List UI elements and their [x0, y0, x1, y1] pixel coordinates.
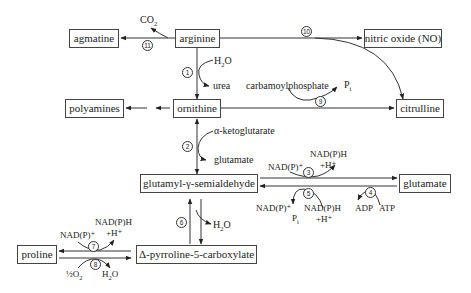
label-alpha-ketoglutarate: α-ketoglutarate	[214, 126, 275, 136]
enzyme-9-marker: 9	[315, 96, 326, 107]
node-agmatine: agmatine	[69, 29, 119, 48]
node-polyamines: polyamines	[65, 99, 124, 118]
enzyme-4-marker: 4	[365, 187, 376, 198]
enzyme-2-marker: 2	[182, 141, 193, 152]
label-h2o-1: H2O	[214, 56, 232, 69]
enzyme-5-marker: 5	[303, 188, 314, 199]
label-h2o-8: H2O	[102, 270, 118, 281]
label-pi-9: Pi	[344, 80, 351, 93]
enzyme-1-marker: 1	[182, 67, 193, 78]
label-co2: CO2	[140, 15, 157, 28]
node-glutamyl-semialdehyde: glutamyl-γ-semialdehyde	[140, 174, 258, 193]
label-nadp-plus-5: NAD(P)⁺	[256, 204, 291, 213]
node-p5c: Δ-pyrroline-5-carboxylate	[136, 245, 257, 264]
label-h-plus-5: +H⁺	[316, 215, 332, 224]
label-h2o-6: H2O	[213, 220, 231, 233]
label-nadph-3: NAD(P)H	[310, 150, 347, 159]
node-nitric-oxide: nitric oxide (NO)	[364, 29, 442, 48]
node-ornithine: ornithine	[173, 99, 221, 118]
label-adp: ADP	[355, 204, 373, 213]
enzyme-10-marker: 10	[301, 26, 312, 37]
label-half-o2: ½O2	[66, 270, 83, 281]
label-nadph-7: NAD(P)H	[95, 218, 132, 227]
enzyme-6-marker: 6	[176, 217, 187, 228]
label-h-plus-7: +H⁺	[106, 229, 122, 238]
enzyme-11-marker: 11	[142, 40, 153, 51]
node-glutamate: glutamate	[399, 174, 451, 193]
label-atp: ATP	[379, 204, 395, 213]
label-h-plus-3: +H⁺	[320, 161, 336, 170]
label-nadph-5: NAD(P)H	[304, 204, 341, 213]
enzyme-7-marker: 7	[88, 241, 99, 252]
node-arginine: arginine	[175, 29, 220, 48]
node-proline: proline	[17, 245, 57, 264]
enzyme-3-marker: 3	[303, 167, 314, 178]
node-citrulline: citrulline	[396, 99, 444, 118]
enzyme-8-marker: 8	[90, 259, 101, 270]
label-glutamate-2: glutamate	[214, 155, 253, 165]
label-pi-5: Pi	[292, 214, 299, 225]
label-nadp-plus-3: NAD(P)⁺	[268, 163, 303, 172]
label-urea: urea	[213, 81, 230, 91]
label-nadp-plus-7: NAD(P)⁺	[60, 231, 95, 240]
label-carbamoylphosphate: carbamoylphosphate	[246, 81, 329, 91]
